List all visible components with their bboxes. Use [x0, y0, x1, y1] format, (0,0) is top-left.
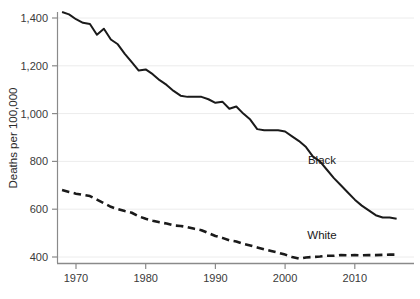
series-labels: BlackWhite: [307, 154, 336, 241]
series-line-black: [62, 12, 397, 219]
y-tick-label: 400: [30, 251, 48, 263]
y-tick-label: 600: [30, 203, 48, 215]
x-tick-label: 2010: [343, 272, 367, 284]
y-tick-label: 800: [30, 155, 48, 167]
y-axis-ticks: 4006008001,0001,2001,400: [20, 12, 58, 263]
gridlines: [58, 18, 414, 257]
y-axis-label: Deaths per 100,000: [7, 87, 19, 188]
series-label-black: Black: [308, 154, 336, 166]
x-axis-ticks: 19701980199020002010: [64, 263, 367, 284]
y-tick-label: 1,400: [20, 12, 48, 24]
series-lines: [62, 12, 397, 259]
series-label-white: White: [307, 229, 336, 241]
series-line-white: [62, 190, 397, 259]
line-chart: 4006008001,0001,2001,400 197019801990200…: [0, 0, 420, 299]
x-tick-label: 1970: [64, 272, 88, 284]
y-tick-label: 1,000: [20, 108, 48, 120]
y-tick-label: 1,200: [20, 60, 48, 72]
chart-container: 4006008001,0001,2001,400 197019801990200…: [0, 0, 420, 299]
x-tick-label: 2000: [273, 272, 297, 284]
x-tick-label: 1990: [203, 272, 227, 284]
x-tick-label: 1980: [133, 272, 157, 284]
